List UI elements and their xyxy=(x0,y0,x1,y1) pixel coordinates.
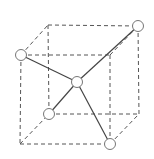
atom-center xyxy=(72,77,83,88)
cube-edge xyxy=(20,55,21,144)
bond xyxy=(77,82,110,144)
cube-edge xyxy=(110,114,139,144)
tetrahedral-molecule-diagram xyxy=(0,0,154,159)
atom-front-bottom-right xyxy=(105,139,116,150)
cube-edge xyxy=(48,25,49,114)
cube-edge xyxy=(21,25,48,55)
bond xyxy=(49,82,77,114)
atoms xyxy=(16,21,144,150)
atom-back-top-right xyxy=(133,21,144,32)
atom-back-bottom-left xyxy=(44,109,55,120)
cube-edge xyxy=(138,26,139,114)
cube-edge xyxy=(48,25,138,26)
bond xyxy=(77,26,138,82)
cube-edge xyxy=(20,114,49,144)
atom-front-top-left xyxy=(16,50,27,61)
